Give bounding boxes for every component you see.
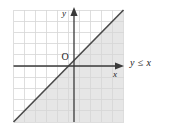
x-axis-label: x xyxy=(112,69,117,79)
origin-label: O xyxy=(61,51,68,62)
y-axis-label: y xyxy=(61,8,66,18)
inequality-annotation: y ≤ x xyxy=(130,57,151,68)
inequality-graph-figure: y x O y ≤ x xyxy=(0,0,171,135)
